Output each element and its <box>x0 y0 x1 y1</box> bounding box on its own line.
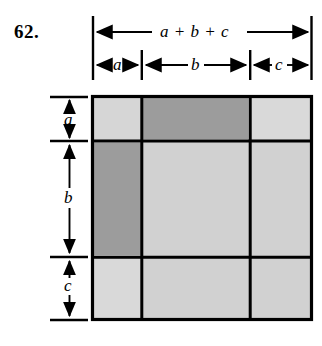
label-width-b: b <box>191 56 200 73</box>
problem-number: 62. <box>14 22 39 41</box>
label-width-a: a <box>113 56 122 73</box>
label-height-c: c <box>64 277 72 294</box>
figure-svg <box>0 0 322 346</box>
square-grid <box>92 96 312 320</box>
cell-a-c <box>252 98 310 139</box>
cell-c-a <box>94 259 141 318</box>
cell-a-b <box>143 98 248 139</box>
cell-b-b <box>143 143 248 255</box>
cell-b-a <box>94 143 141 255</box>
label-height-b: b <box>64 189 73 206</box>
geometry-figure <box>0 0 322 346</box>
cell-b-c <box>252 143 310 255</box>
cell-a-a <box>94 98 141 139</box>
label-height-a: a <box>64 111 73 128</box>
label-width-c: c <box>275 56 283 73</box>
label-total-width: a + b + c <box>160 23 229 40</box>
cell-c-b <box>143 259 248 318</box>
cell-c-c <box>252 259 310 318</box>
